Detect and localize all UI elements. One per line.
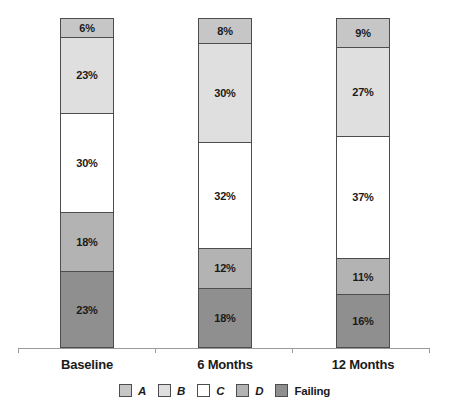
bar-segment-failing: 16% <box>336 295 390 348</box>
x-axis-line <box>18 348 430 349</box>
legend-item-d: D <box>236 384 263 397</box>
bar-segment-b: 27% <box>336 48 390 137</box>
bar-segment-a: 6% <box>60 18 114 38</box>
legend-item-a: A <box>119 384 146 397</box>
legend: ABCDFailing <box>0 384 449 397</box>
legend-label-b: B <box>177 385 185 397</box>
category-label-12-months: 12 Months <box>332 357 394 372</box>
axis-tick <box>292 348 293 353</box>
grade-distribution-stacked-bar-chart: 6%23%30%18%23%8%30%32%12%18%9%27%37%11%1… <box>0 0 449 419</box>
bar-segment-d: 11% <box>336 259 390 295</box>
bar-segment-a: 8% <box>198 18 252 44</box>
bar-segment-c: 30% <box>60 114 114 213</box>
legend-swatch-c <box>197 384 210 397</box>
bar-segment-b: 23% <box>60 38 114 114</box>
bar-segment-c: 32% <box>198 143 252 249</box>
legend-item-failing: Failing <box>275 384 330 397</box>
stacked-bar-6-months: 8%30%32%12%18% <box>198 18 252 348</box>
legend-swatch-a <box>119 384 132 397</box>
legend-swatch-d <box>236 384 249 397</box>
axis-tick <box>18 348 19 353</box>
bar-segment-c: 37% <box>336 137 390 259</box>
category-label-baseline: Baseline <box>61 357 113 372</box>
legend-label-failing: Failing <box>294 385 330 397</box>
bar-segment-b: 30% <box>198 44 252 143</box>
legend-label-a: A <box>138 385 146 397</box>
stacked-bar-baseline: 6%23%30%18%23% <box>60 18 114 348</box>
bar-segment-d: 12% <box>198 249 252 289</box>
legend-label-c: C <box>216 385 224 397</box>
bar-segment-a: 9% <box>336 18 390 48</box>
axis-tick <box>155 348 156 353</box>
legend-swatch-failing <box>275 384 288 397</box>
legend-swatch-b <box>158 384 171 397</box>
bar-segment-d: 18% <box>60 213 114 272</box>
bar-segment-failing: 18% <box>198 289 252 348</box>
bar-segment-failing: 23% <box>60 272 114 348</box>
legend-item-c: C <box>197 384 224 397</box>
category-label-6-months: 6 Months <box>197 357 252 372</box>
legend-label-d: D <box>255 385 263 397</box>
legend-item-b: B <box>158 384 185 397</box>
plot-area: 6%23%30%18%23%8%30%32%12%18%9%27%37%11%1… <box>18 18 430 348</box>
stacked-bar-12-months: 9%27%37%11%16% <box>336 18 390 348</box>
axis-tick <box>429 348 430 353</box>
